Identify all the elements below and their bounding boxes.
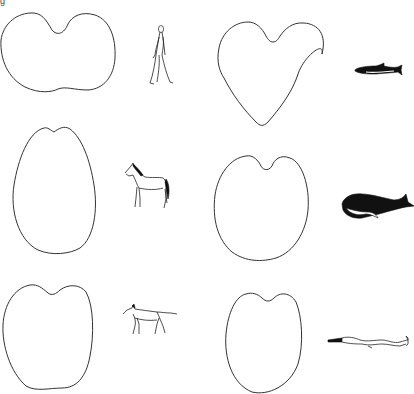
outline-heart-shape <box>218 22 323 125</box>
outline-egg-shape <box>13 127 95 253</box>
dolphin-icon <box>355 63 402 75</box>
dog-icon <box>123 304 177 334</box>
outline-apple-shape <box>3 285 93 389</box>
outline-rounded-heart-shape <box>214 156 308 261</box>
outline-kidney-shape <box>1 13 115 92</box>
horse-icon <box>125 163 169 208</box>
whale-icon <box>342 194 414 218</box>
human-walking-icon <box>150 26 173 85</box>
eel-icon <box>328 336 408 348</box>
outline-notched-oval-shape <box>226 293 302 393</box>
